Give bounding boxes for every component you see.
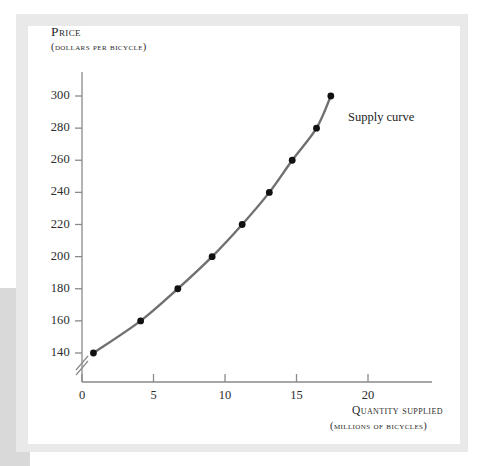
x-tick-label: 15 <box>277 388 317 403</box>
y-tick-label: 180 <box>28 281 70 296</box>
x-tick-label: 0 <box>62 388 102 403</box>
y-tick-label: 200 <box>28 249 70 264</box>
y-tick-label: 140 <box>28 345 70 360</box>
supply-curve-chart: Price (dollars per bicycle) Quantity sup… <box>0 0 483 466</box>
x-tick-label: 5 <box>134 388 174 403</box>
y-tick-label: 240 <box>28 184 70 199</box>
data-points-group <box>90 93 334 357</box>
x-tick-label: 10 <box>205 388 245 403</box>
y-tick-label: 300 <box>28 88 70 103</box>
axes-group <box>82 72 432 382</box>
y-tick-label: 280 <box>28 120 70 135</box>
y-tick-label: 220 <box>28 217 70 232</box>
y-tick-label: 160 <box>28 313 70 328</box>
supply-curve-line <box>93 96 330 353</box>
tick-marks-group <box>75 96 368 382</box>
x-tick-label: 20 <box>348 388 388 403</box>
y-tick-label: 260 <box>28 152 70 167</box>
